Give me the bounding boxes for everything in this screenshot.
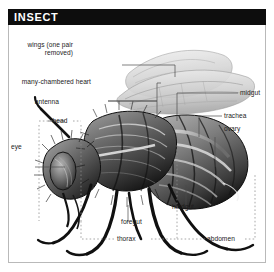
label-hindgut: hindgut — [172, 203, 194, 211]
bracket-abdomen-right — [245, 175, 255, 239]
label-thorax: thorax — [117, 235, 136, 243]
insect-anatomy-figure: INSECT — [0, 0, 274, 272]
label-eye: eye — [11, 143, 22, 151]
label-ovary: ovary — [224, 125, 240, 133]
label-midgut: midgut — [240, 89, 260, 97]
label-abdomen: abdomen — [207, 235, 235, 243]
label-trachea: trachea — [224, 112, 246, 120]
label-head: head — [42, 117, 78, 125]
compound-eye — [50, 152, 76, 190]
label-heart: many-chambered heart — [9, 78, 91, 86]
wings-group — [117, 50, 255, 114]
label-antenna: antenna — [15, 98, 59, 106]
illustration-plate: wings (one pair removed) many-chambered … — [9, 25, 265, 262]
label-wings: wings (one pair removed) — [9, 41, 73, 56]
label-foregut: foregut — [121, 218, 142, 226]
title-bar: INSECT — [8, 9, 266, 25]
head-group — [34, 130, 101, 229]
page-title: INSECT — [14, 11, 59, 23]
insect-illustration — [9, 25, 265, 262]
